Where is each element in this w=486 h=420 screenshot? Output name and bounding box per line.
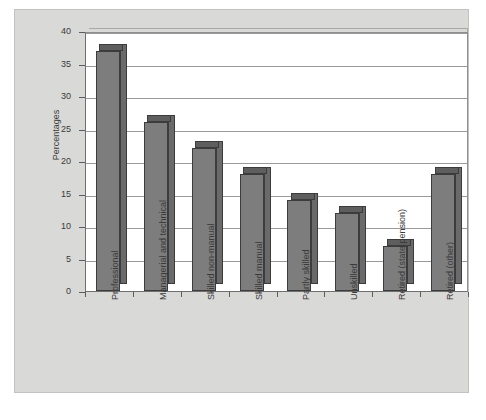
x-axis-tick bbox=[133, 292, 134, 297]
y-axis-tick bbox=[79, 32, 85, 33]
y-axis-tick-label: 0 bbox=[45, 287, 71, 296]
bar-top-face bbox=[291, 193, 315, 200]
bar-top-face bbox=[99, 44, 123, 51]
bar-top-face bbox=[195, 141, 219, 148]
bar-side-face bbox=[359, 206, 366, 284]
bar-top-face bbox=[339, 206, 363, 213]
x-axis-category-label: Managerial and technical bbox=[159, 200, 168, 300]
x-axis-category-label: Skilled manual bbox=[255, 241, 264, 300]
x-axis-tick bbox=[468, 292, 469, 297]
bar-side-face bbox=[216, 141, 223, 284]
bar-side-face bbox=[264, 167, 271, 284]
y-axis-tick bbox=[79, 260, 85, 261]
plot-area bbox=[85, 32, 468, 292]
x-axis-category-label: Unskilled bbox=[350, 263, 359, 300]
x-axis-tick bbox=[324, 292, 325, 297]
x-axis-tick bbox=[372, 292, 373, 297]
y-axis-tick bbox=[79, 65, 85, 66]
bar-side-face bbox=[455, 167, 462, 284]
gridline bbox=[86, 66, 467, 67]
x-axis-tick bbox=[85, 292, 86, 297]
bar-side-face bbox=[120, 44, 127, 285]
y-axis-title: Percentages bbox=[51, 90, 61, 180]
bar-top-face bbox=[435, 167, 459, 174]
bar-top-face bbox=[243, 167, 267, 174]
x-axis-category-label: Professional bbox=[111, 250, 120, 300]
bar-chart-figure: Percentages 0510152025303540 Professiona… bbox=[0, 0, 486, 420]
y-axis-tick bbox=[79, 162, 85, 163]
chart-panel: Percentages 0510152025303540 Professiona… bbox=[14, 9, 469, 393]
y-axis-tick-label: 20 bbox=[45, 157, 71, 166]
x-axis-category-label: Retired (other) bbox=[446, 242, 455, 300]
x-axis-category-label: Partly skilled bbox=[302, 249, 311, 300]
y-axis-tick-label: 25 bbox=[45, 125, 71, 134]
gridline bbox=[86, 33, 467, 34]
bar-top-face bbox=[147, 115, 171, 122]
y-axis-tick-label: 30 bbox=[45, 92, 71, 101]
gridline bbox=[86, 98, 467, 99]
y-axis-tick-label: 10 bbox=[45, 222, 71, 231]
y-axis-tick-label: 40 bbox=[45, 27, 71, 36]
y-axis-tick bbox=[79, 227, 85, 228]
x-axis-category-label: Retired (state pension) bbox=[398, 209, 407, 300]
y-axis-tick bbox=[79, 97, 85, 98]
x-axis-category-label: Skilled non-manual bbox=[207, 223, 216, 300]
y-axis-tick-label: 15 bbox=[45, 190, 71, 199]
y-axis-tick bbox=[79, 130, 85, 131]
y-axis-tick-label: 35 bbox=[45, 60, 71, 69]
bar-side-face bbox=[168, 115, 175, 284]
x-axis-tick bbox=[181, 292, 182, 297]
x-axis-tick bbox=[277, 292, 278, 297]
y-axis-tick bbox=[79, 195, 85, 196]
bar-side-face bbox=[311, 193, 318, 284]
x-axis-tick bbox=[420, 292, 421, 297]
y-axis-tick-label: 5 bbox=[45, 255, 71, 264]
x-axis-tick bbox=[229, 292, 230, 297]
